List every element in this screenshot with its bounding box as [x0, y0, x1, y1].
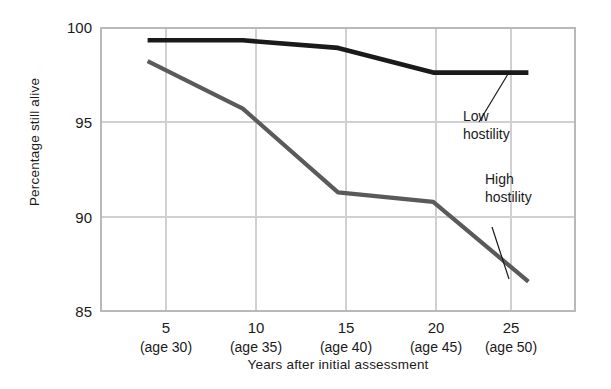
x-tick-label-10: 10 (age 35) [208, 318, 304, 357]
x-tick-value-25: 25 [503, 319, 520, 336]
x-tick-value-15: 15 [338, 319, 355, 336]
annotation-low-hostility-line1: Low [463, 107, 510, 125]
series-line-high-hostility [148, 61, 529, 281]
y-tick-label-90: 90 [32, 209, 92, 226]
y-tick-label-100: 100 [32, 19, 92, 36]
chart-figure: Percentage still alive 100 95 90 85 [0, 0, 611, 389]
annotation-low-hostility-line2: hostility [463, 125, 510, 143]
x-tick-value-10: 10 [248, 319, 265, 336]
x-tick-label-5: 5 (age 30) [118, 318, 214, 357]
x-tick-label-25: 25 (age 50) [463, 318, 559, 357]
x-tick-age-15: (age 40) [298, 338, 394, 357]
x-tick-age-10: (age 35) [208, 338, 304, 357]
annotation-high-hostility-line1: High [485, 170, 532, 188]
x-axis-title: Years after initial assessment [100, 357, 576, 372]
x-tick-age-25: (age 50) [463, 338, 559, 357]
series-line-low-hostility [148, 40, 529, 72]
annotation-low-hostility: Low hostility [463, 107, 510, 143]
vertical-gridlines [166, 27, 511, 312]
y-tick-label-95: 95 [32, 114, 92, 131]
x-tick-label-15: 15 (age 40) [298, 318, 394, 357]
x-tick-age-5: (age 30) [118, 338, 214, 357]
annotation-high-hostility-line2: hostility [485, 188, 532, 206]
y-axis-title: Percentage still alive [14, 0, 54, 284]
y-tick-label-85: 85 [32, 303, 92, 320]
x-tick-value-5: 5 [162, 319, 170, 336]
annotation-high-hostility: High hostility [485, 170, 532, 206]
x-tick-value-20: 20 [428, 319, 445, 336]
